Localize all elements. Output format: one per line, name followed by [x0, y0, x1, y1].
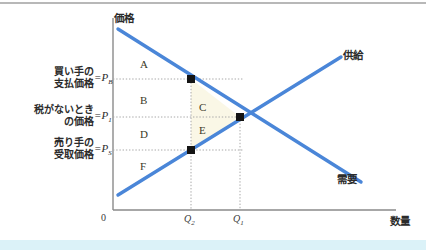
- region-label-a: A: [140, 58, 148, 71]
- price-label-ps-name: 売り手の 受取価格: [22, 137, 94, 160]
- axis-origin-label: 0: [101, 212, 106, 224]
- bottom-accent-band: [0, 240, 426, 250]
- price-symbol-ps: =PS: [94, 142, 112, 157]
- demand-curve-label: 需要: [337, 173, 357, 185]
- price-symbol-pb: =PB: [94, 71, 112, 86]
- price-label-p1-line2: の価格: [14, 116, 94, 128]
- price-label-ps-line1: 売り手の: [22, 137, 94, 149]
- price-symbol-ps-text: =P: [94, 142, 108, 154]
- region-label-e: E: [199, 124, 206, 137]
- x-tick-q1-sub: 1: [240, 219, 244, 227]
- price-symbol-p1: =P1: [94, 109, 112, 124]
- price-label-pb-line2: 支払価格: [22, 78, 94, 90]
- marker-equilibrium-point: [236, 113, 244, 121]
- price-label-p1-line1: 税がないとき: [14, 104, 94, 116]
- x-axis-title: 数量: [390, 215, 410, 227]
- x-tick-q1: Q1: [233, 213, 244, 227]
- region-label-b: B: [140, 94, 147, 107]
- x-tick-q2-sub: 2: [191, 219, 195, 227]
- region-label-f: F: [140, 160, 146, 173]
- region-label-c: C: [199, 101, 206, 114]
- marker-buyer-price-point: [187, 75, 195, 83]
- price-label-pb-name: 買い手の 支払価格: [22, 66, 94, 89]
- price-label-ps-line2: 受取価格: [22, 149, 94, 161]
- marker-seller-price-point: [187, 146, 195, 154]
- supply-curve: [118, 57, 341, 195]
- price-symbol-p1-text: =P: [94, 109, 108, 121]
- diagram-canvas: 価格 数量 0 供給 需要 買い手の 支払価格 =PB 税がないとき の価格 =…: [0, 0, 426, 250]
- price-symbol-p1-sub: 1: [108, 116, 112, 124]
- region-label-d: D: [140, 128, 148, 141]
- x-tick-q2: Q2: [184, 213, 195, 227]
- price-symbol-ps-sub: S: [108, 149, 112, 157]
- price-symbol-pb-sub: B: [108, 78, 112, 86]
- supply-curve-label: 供給: [343, 49, 363, 61]
- price-label-p1-name: 税がないとき の価格: [14, 104, 94, 127]
- price-label-pb-line1: 買い手の: [22, 66, 94, 78]
- y-axis-title: 価格: [114, 12, 134, 24]
- price-symbol-pb-text: =P: [94, 71, 108, 83]
